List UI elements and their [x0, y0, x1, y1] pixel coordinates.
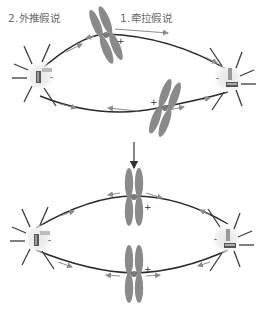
centrosome-right [210, 48, 256, 110]
arrow-icon [108, 193, 120, 195]
centrosome-left [10, 207, 54, 269]
arrow-icon [198, 262, 210, 266]
chromosome-top [125, 168, 143, 226]
bottom-panel: + + [10, 168, 254, 303]
plus-sign: + [144, 264, 152, 274]
top-panel: + + [12, 5, 256, 139]
pull-arrow-icon [115, 29, 168, 33]
arrow-icon [146, 275, 160, 276]
centrosome-left [12, 44, 56, 106]
chromosome-bottom [125, 245, 143, 303]
plus-sign: + [144, 202, 152, 212]
arrow-icon [106, 275, 120, 276]
spindle-fiber-bottom [40, 92, 228, 112]
arrow-icon [205, 57, 217, 63]
arrow-icon [108, 108, 138, 111]
mitosis-diagram: - - + + [0, 0, 262, 315]
centrosome-right [208, 209, 254, 271]
plus-sign: + [150, 97, 158, 107]
spindle-fiber-top [38, 34, 228, 72]
plus-sign: + [117, 36, 125, 46]
